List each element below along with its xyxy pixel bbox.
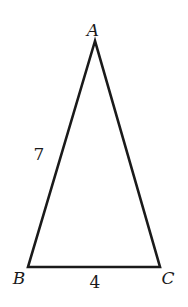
- vertex-label-c: C: [161, 268, 174, 288]
- vertex-label-b: B: [12, 268, 26, 288]
- side-length-ab: 7: [34, 144, 45, 164]
- vertex-label-a: A: [85, 20, 99, 40]
- triangle-abc: [28, 41, 160, 267]
- triangle-diagram: A B C 7 4: [0, 0, 188, 307]
- side-length-bc: 4: [90, 272, 101, 292]
